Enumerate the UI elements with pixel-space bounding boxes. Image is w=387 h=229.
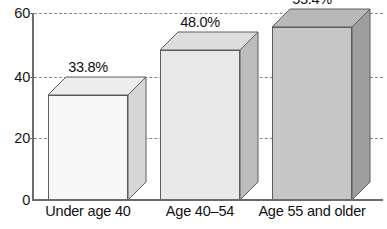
bar-value-label-age-40-54: 48.0% xyxy=(150,15,250,30)
category-label-age-40-54: Age 40–54 xyxy=(135,204,265,219)
bar-3d-under-age-40 xyxy=(48,0,148,200)
y-tick-label-60: 60 xyxy=(2,6,30,21)
bar-value-label-age-55-and-older: 55.4% xyxy=(262,0,362,7)
y-axis-line xyxy=(32,13,34,201)
y-tick-label-20: 20 xyxy=(2,131,30,146)
bar-3d-age-55-and-older xyxy=(272,0,372,200)
category-label-under-age-40: Under age 40 xyxy=(23,204,153,219)
bar-chart: 60 40 20 0 33.8% 48.0% 55.4% Under age 4… xyxy=(0,0,387,229)
bar-value-label-under-age-40: 33.8% xyxy=(38,60,138,75)
x-axis-line xyxy=(32,199,383,201)
category-label-age-55-and-older: Age 55 and older xyxy=(247,204,377,219)
bar-3d-age-40-54 xyxy=(160,0,260,200)
y-tick-label-40: 40 xyxy=(2,70,30,85)
